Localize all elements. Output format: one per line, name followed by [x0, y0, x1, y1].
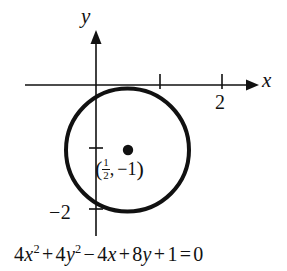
eq-right-hand-side: 0: [193, 243, 203, 265]
y-tick-label-minus-2: −2: [49, 202, 71, 222]
eq-term4-coeff: 8: [132, 243, 142, 265]
eq-term4-var: y: [143, 243, 152, 265]
eq-term2-var: y: [66, 243, 75, 265]
center-point-dot: [123, 145, 133, 155]
one-half-fraction: 1 2: [102, 157, 110, 181]
eq-equals-sign: =: [178, 243, 194, 265]
y-axis-label: y: [81, 6, 90, 27]
y-axis-arrowhead: [91, 30, 102, 44]
eq-term5-constant: 1: [167, 243, 177, 265]
fraction-numerator: 1: [102, 157, 110, 169]
open-paren: (: [95, 158, 102, 180]
center-coordinate-label: ( 1 2 , −1 ): [95, 157, 144, 181]
coordinate-y-value: −1: [117, 160, 136, 178]
eq-term1-coeff: 4: [14, 243, 24, 265]
plot-canvas: [0, 0, 287, 271]
eq-operator-1: +: [40, 243, 56, 265]
equation-caption: 4x2+4y2−4x+8y+1=0: [14, 243, 204, 266]
eq-term1-var: x: [24, 243, 33, 265]
eq-operator-2: −: [82, 243, 98, 265]
close-paren: ): [136, 158, 143, 180]
circle-graph-figure: y x 2 −2 ( 1 2 , −1 ) 4x2+4y2−4x+8y+1=0: [0, 0, 287, 271]
eq-operator-3: +: [117, 243, 133, 265]
x-tick-label-2: 2: [215, 92, 225, 112]
eq-term3-coeff: 4: [97, 243, 107, 265]
eq-term2-coeff: 4: [56, 243, 66, 265]
fraction-denominator: 2: [102, 169, 110, 182]
eq-term3-var: x: [108, 243, 117, 265]
x-axis-label: x: [262, 70, 271, 91]
x-axis-arrowhead: [246, 80, 259, 91]
coordinate-separator: ,: [110, 160, 118, 178]
eq-term2-exponent: 2: [75, 242, 82, 256]
eq-operator-4: +: [152, 243, 168, 265]
